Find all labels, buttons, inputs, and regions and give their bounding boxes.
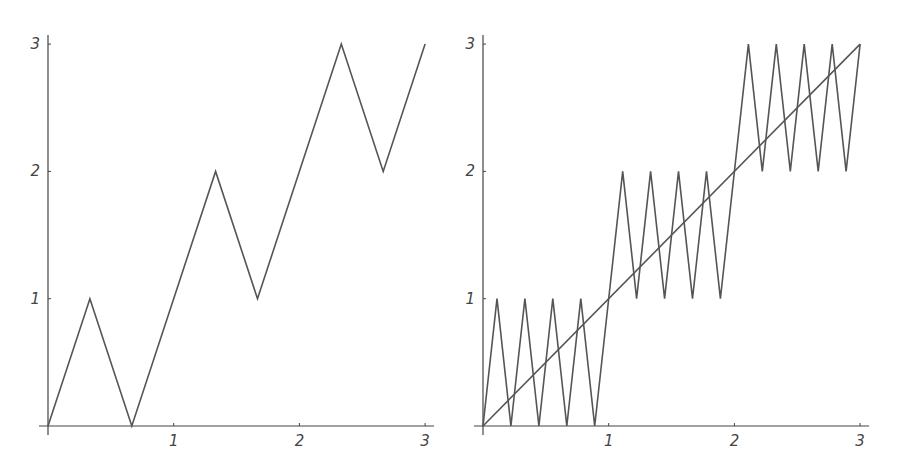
y-tick-label: 1 — [465, 290, 475, 308]
y-tick-label: 3 — [465, 35, 475, 53]
x-tick-label: 3 — [855, 432, 865, 450]
series-diagonal — [483, 44, 860, 426]
y-tick-label: 2 — [30, 162, 40, 180]
left-plot: 123123 — [30, 35, 434, 450]
x-tick-label: 1 — [169, 432, 179, 450]
y-tick-label: 3 — [30, 35, 40, 53]
x-tick-label: 2 — [730, 432, 740, 450]
chart-figure: 123123123123 — [0, 0, 897, 475]
series-zigzag — [48, 44, 425, 426]
y-tick-label: 2 — [465, 162, 475, 180]
x-tick-label: 1 — [604, 432, 614, 450]
x-tick-label: 3 — [420, 432, 430, 450]
x-tick-label: 2 — [295, 432, 305, 450]
right-plot: 123123 — [465, 35, 869, 450]
y-tick-label: 1 — [30, 290, 40, 308]
